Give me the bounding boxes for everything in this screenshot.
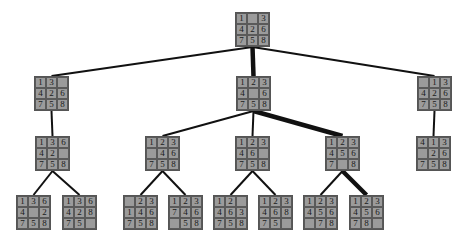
tile: 2 xyxy=(428,148,439,159)
tile: 2 xyxy=(337,137,348,148)
tile: 2 xyxy=(180,196,191,207)
tile: 4 xyxy=(304,207,315,218)
tile: 2 xyxy=(39,207,50,218)
tile: 3 xyxy=(236,207,247,218)
tile: 8 xyxy=(168,159,179,170)
tile: 8 xyxy=(191,218,202,229)
tile: 5 xyxy=(247,35,258,46)
tile: 1 xyxy=(259,196,270,207)
tile: 2 xyxy=(135,196,146,207)
puzzle-state-l1b: 12346758 xyxy=(236,76,271,111)
tree-edge xyxy=(253,111,254,136)
tile: 7 xyxy=(124,218,135,229)
tile: 8 xyxy=(58,159,69,170)
tile: 6 xyxy=(58,137,69,148)
tile: 2 xyxy=(315,196,326,207)
tile: 5 xyxy=(361,207,372,218)
tile: 7 xyxy=(146,159,157,170)
tile: 6 xyxy=(259,88,270,99)
tile: 6 xyxy=(326,207,337,218)
tile: 3 xyxy=(258,13,269,24)
tile: 1 xyxy=(146,137,157,148)
tile: 7 xyxy=(315,218,326,229)
tile: 1 xyxy=(214,196,225,207)
tile: 1 xyxy=(237,77,248,88)
tile: 8 xyxy=(236,218,247,229)
tile: 7 xyxy=(236,35,247,46)
tile: 3 xyxy=(326,196,337,207)
tile: 6 xyxy=(372,207,383,218)
tile: 4 xyxy=(157,148,168,159)
tile: 5 xyxy=(315,207,326,218)
tile: 6 xyxy=(225,207,236,218)
puzzle-state-l2d: 12345678 xyxy=(325,136,360,171)
tree-edge xyxy=(434,111,435,136)
tile: 8 xyxy=(439,159,450,170)
tree-edge xyxy=(253,171,276,195)
tile: 6 xyxy=(39,196,50,207)
solution-edge xyxy=(343,171,367,195)
tile: 3 xyxy=(47,137,58,148)
tile: 5 xyxy=(337,148,348,159)
puzzle-state-l3d: 12374658 xyxy=(168,195,203,230)
tile: 6 xyxy=(439,148,450,159)
tile: 2 xyxy=(361,196,372,207)
tile: 4 xyxy=(418,88,429,99)
tile: 3 xyxy=(191,196,202,207)
tile: 4 xyxy=(259,207,270,218)
tile: 5 xyxy=(74,218,85,229)
tile: 3 xyxy=(439,137,450,148)
tile: 1 xyxy=(326,137,337,148)
tile: 2 xyxy=(247,24,258,35)
tile: 8 xyxy=(440,99,451,110)
tile: 2 xyxy=(47,148,58,159)
tile: 7 xyxy=(418,99,429,110)
tile: 3 xyxy=(259,77,270,88)
puzzle-state-l1c: 13426758 xyxy=(417,76,452,111)
tile: 4 xyxy=(237,88,248,99)
tree-edge xyxy=(231,171,253,195)
tile: 8 xyxy=(258,159,269,170)
tile: 5 xyxy=(47,159,58,170)
blank-tile xyxy=(58,148,69,159)
puzzle-state-l2c: 12346758 xyxy=(235,136,270,171)
tile: 6 xyxy=(168,148,179,159)
tile: 3 xyxy=(258,137,269,148)
tile: 5 xyxy=(429,99,440,110)
solution-edge xyxy=(254,111,343,136)
tree-edge xyxy=(34,171,53,195)
tile: 4 xyxy=(36,148,47,159)
tile: 2 xyxy=(248,77,259,88)
tile: 8 xyxy=(146,218,157,229)
tile: 3 xyxy=(372,196,383,207)
tile: 5 xyxy=(248,99,259,110)
tile: 8 xyxy=(57,99,68,110)
tile: 7 xyxy=(17,218,28,229)
blank-tile xyxy=(247,13,258,24)
tile: 6 xyxy=(146,207,157,218)
tile: 4 xyxy=(35,88,46,99)
tile: 3 xyxy=(28,196,39,207)
tile: 8 xyxy=(348,159,359,170)
tile: 1 xyxy=(428,137,439,148)
tile: 1 xyxy=(124,207,135,218)
tree-edge xyxy=(52,47,253,76)
tile: 6 xyxy=(348,148,359,159)
tile: 2 xyxy=(270,196,281,207)
puzzle-state-l3e: 12463758 xyxy=(213,195,248,230)
tile: 1 xyxy=(63,196,74,207)
blank-tile xyxy=(85,218,96,229)
tile: 4 xyxy=(180,207,191,218)
blank-tile xyxy=(258,148,269,159)
tile: 1 xyxy=(236,13,247,24)
tile: 5 xyxy=(135,218,146,229)
tile: 7 xyxy=(36,159,47,170)
tile: 6 xyxy=(247,148,258,159)
puzzle-state-root: 13426758 xyxy=(235,12,270,47)
tile: 4 xyxy=(214,207,225,218)
tile: 5 xyxy=(225,218,236,229)
tile: 6 xyxy=(191,207,202,218)
tile: 6 xyxy=(270,207,281,218)
tile: 7 xyxy=(417,159,428,170)
tile: 2 xyxy=(225,196,236,207)
